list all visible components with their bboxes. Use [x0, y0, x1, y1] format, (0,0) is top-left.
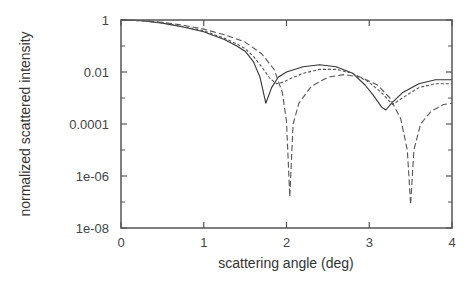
plot-frame: [121, 20, 452, 228]
y-tick-label: 0.0001: [69, 117, 109, 132]
y-tick-label: 1e-08: [76, 221, 109, 236]
x-tick-label: 3: [366, 235, 373, 250]
y-tick-label: 0.01: [84, 65, 109, 80]
axis-ticks: [121, 20, 452, 228]
x-tick-label: 1: [200, 235, 207, 250]
x-tick-label: 4: [448, 235, 455, 250]
y-tick-label: 1e-06: [76, 169, 109, 184]
y-axis-label: normalized scattered intensity: [17, 31, 33, 216]
series-line-short-dash: [121, 20, 452, 105]
x-tick-labels: 01234: [117, 235, 455, 250]
chart: 01234 10.010.00011e-061e-08 scattering a…: [0, 0, 473, 283]
y-tick-labels: 10.010.00011e-061e-08: [69, 13, 109, 236]
x-axis-label: scattering angle (deg): [218, 255, 353, 271]
x-tick-label: 2: [283, 235, 290, 250]
series-line-solid: [121, 20, 452, 110]
x-tick-label: 0: [117, 235, 124, 250]
plot-lines: [121, 20, 452, 205]
y-tick-label: 1: [102, 13, 109, 28]
series-line-long-dash: [121, 20, 452, 205]
